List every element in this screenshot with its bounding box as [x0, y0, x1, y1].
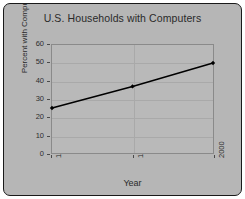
y-axis-tick-label: 30: [18, 95, 44, 103]
y-axis-tick-label: 10: [18, 132, 44, 140]
y-axis-tick-mark: [47, 117, 50, 118]
y-axis-tick-label: 0: [18, 150, 44, 158]
plot-area: [51, 44, 214, 154]
y-axis-tick-label: 40: [18, 77, 44, 85]
x-axis-tick-label: 2000: [217, 141, 226, 158]
y-axis-tick-mark: [47, 99, 50, 100]
y-axis-tick-mark: [47, 62, 50, 63]
data-point-marker: [130, 84, 134, 88]
y-axis-tick-label: 50: [18, 58, 44, 66]
y-axis-tick-mark: [47, 136, 50, 137]
x-axis-tick-mark: [133, 155, 134, 158]
y-axis-tick-mark: [47, 44, 50, 45]
y-axis-tick-label: 20: [18, 113, 44, 121]
x-axis-title: Year: [51, 178, 214, 188]
x-axis-tick-mark: [214, 155, 215, 158]
y-axis-tick-mark: [47, 154, 50, 155]
y-axis-tick-mark: [47, 81, 50, 82]
x-axis-tick-mark: [51, 155, 52, 158]
chart-screenshot: U.S. Households with Computers Percent w…: [0, 0, 245, 199]
data-series-line: [52, 45, 213, 153]
data-point-marker: [211, 61, 215, 65]
chart-figure-frame: U.S. Households with Computers Percent w…: [3, 3, 242, 196]
data-point-marker: [50, 106, 54, 110]
chart-title: U.S. Households with Computers: [4, 12, 241, 24]
y-axis-tick-label: 60: [18, 40, 44, 48]
